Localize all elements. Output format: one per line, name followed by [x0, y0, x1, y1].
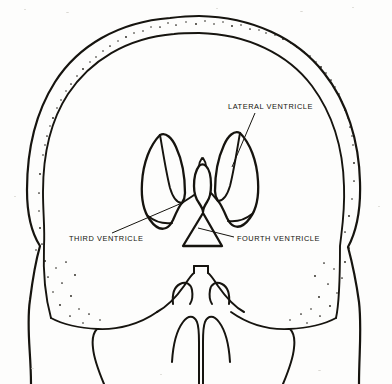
cranial-vault-outer-path [27, 16, 360, 384]
left-lateral-ventricle-path [142, 134, 185, 228]
left-nasal-concha-path [173, 283, 193, 304]
third-ventricle-path [194, 165, 211, 213]
lateral-ventricle-label: LATERAL VENTRICLE [228, 102, 313, 111]
lateral-ventricle-leader-line [232, 113, 255, 167]
right-temporal-process-path [231, 312, 336, 329]
fourth-ventricle-label: FOURTH VENTRICLE [237, 234, 320, 243]
anatomy-illustration: LATERAL VENTRICLE THIRD VENTRICLE FOURTH… [0, 0, 392, 384]
third-ventricle-leader-line [112, 203, 182, 233]
right-zygomatic-notch-path [283, 329, 294, 384]
cranial-vault-inner-path [43, 33, 344, 318]
nasal-notch-path [194, 266, 208, 273]
third-ventricle-label: THIRD VENTRICLE [69, 234, 143, 243]
right-lateral-ventricle-path [215, 132, 258, 226]
right-nasal-concha-path [210, 283, 230, 304]
nasal-septum-right-path [203, 317, 230, 384]
skull-base-path [157, 266, 244, 312]
right-lateral-ventricle-inner-line [218, 133, 240, 201]
left-temporal-process-path [51, 312, 157, 329]
anatomical-figure: LATERAL VENTRICLE THIRD VENTRICLE FOURTH… [0, 0, 392, 384]
left-zygomatic-notch-path [93, 329, 104, 384]
nasal-septum-left-path [172, 317, 199, 384]
left-lateral-ventricle-inner-line [160, 135, 182, 203]
